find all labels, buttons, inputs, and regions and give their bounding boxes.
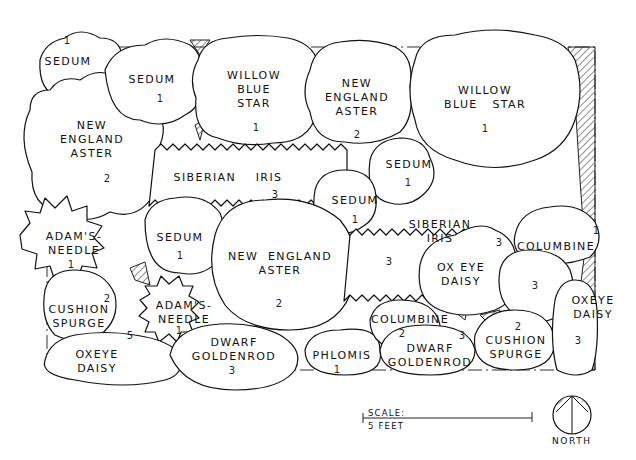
label-sedum-d: SEDUM	[332, 194, 379, 208]
label-new-england-aster-c: NEW ENGLAND ASTER	[228, 250, 332, 278]
label-oxeye-daisy-c: OXEYE DAISY	[571, 294, 614, 322]
north-arrow-icon	[553, 396, 591, 434]
count-dwarf-goldenrod-a: 3	[229, 365, 235, 376]
count-columbine-b: 3	[532, 280, 538, 291]
count-adams-needle-a: 1	[68, 259, 74, 270]
label-oxeye-daisy-b: OXEYE DAISY	[75, 348, 118, 376]
count-oxeye-daisy-c: 3	[575, 335, 581, 346]
label-dwarf-goldenrod-a: DWARF GOLDENROD	[192, 336, 276, 364]
label-cushion-spurge-a: CUSHION SPURGE	[49, 303, 110, 331]
count-adams-needle-b: 1	[176, 325, 182, 336]
count-dwarf-goldenrod-b: 3	[459, 330, 465, 341]
count-oxeye-daisy-a: 3	[496, 237, 502, 248]
count-sedum-d: 1	[352, 214, 358, 225]
count-oxeye-daisy-b: 5	[127, 330, 133, 341]
count-sedum-c: 1	[405, 177, 411, 188]
label-columbine-c: COLUMBINE	[371, 313, 449, 327]
label-columbine-a: COLUMBINE	[517, 240, 595, 254]
north-label: NORTH	[552, 436, 592, 446]
count-sedum-e: 1	[177, 250, 183, 261]
hatched-gap	[130, 262, 150, 285]
count-siberian-iris-b: 3	[386, 256, 392, 267]
count-new-england-aster-c: 2	[276, 298, 282, 309]
count-cushion-spurge-b: 2	[515, 321, 521, 332]
label-new-england-aster-b-top: NEW ENGLAND ASTER	[325, 77, 389, 119]
label-siberian-iris-b: SIBERIAN IRIS	[409, 218, 472, 246]
count-siberian-iris-a: 3	[272, 189, 278, 200]
count-phlomis: 1	[334, 364, 340, 375]
count-sedum-a: 1	[64, 35, 70, 46]
label-sedum-e: SEDUM	[157, 231, 204, 245]
label-phlomis: PHLOMIS	[313, 349, 372, 363]
count-columbine-a: 1	[593, 225, 599, 236]
label-willow-blue-star-b: WILLOW BLUE STAR	[444, 84, 526, 112]
count-cushion-spurge-a: 2	[104, 293, 110, 304]
count-new-england-aster-a: 2	[104, 173, 110, 184]
count-willow-blue-star-b: 1	[482, 123, 488, 134]
count-sedum-b: 1	[157, 93, 163, 104]
count-willow-blue-star-a: 1	[253, 122, 259, 133]
count-columbine-c: 2	[399, 328, 405, 339]
label-sedum-c: SEDUM	[386, 158, 433, 172]
scale-label: SCALE:	[368, 408, 405, 418]
label-siberian-iris-a: SIBERIAN IRIS	[174, 171, 283, 185]
label-dwarf-goldenrod-b: DWARF GOLDENROD	[388, 342, 472, 370]
label-sedum-a: SEDUM	[45, 55, 92, 69]
label-adams-needle-a: ADAM'S- NEEDLE	[46, 230, 103, 258]
label-cushion-spurge-b: CUSHION SPURGE	[486, 334, 547, 362]
label-oxeye-daisy-a: OX EYE DAISY	[437, 261, 485, 289]
scale-value: 5 FEET	[368, 421, 404, 431]
label-adams-needle-b: ADAM'S- NEEDLE	[156, 299, 213, 327]
label-new-england-aster-a: NEW ENGLAND ASTER	[60, 119, 124, 161]
label-sedum-b: SEDUM	[129, 73, 176, 87]
label-willow-blue-star-a: WILLOW BLUE STAR	[227, 69, 281, 111]
count-new-england-aster-b-top: 2	[354, 129, 360, 140]
